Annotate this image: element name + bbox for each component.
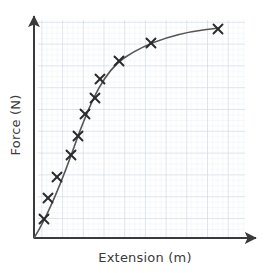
chart-canvas: Extension (m) Force (N) [0, 0, 272, 273]
y-axis-label: Force (N) [8, 95, 23, 156]
plot-grid [38, 20, 245, 238]
force-extension-chart: Extension (m) Force (N) [0, 0, 272, 273]
x-axis-label: Extension (m) [98, 250, 191, 265]
